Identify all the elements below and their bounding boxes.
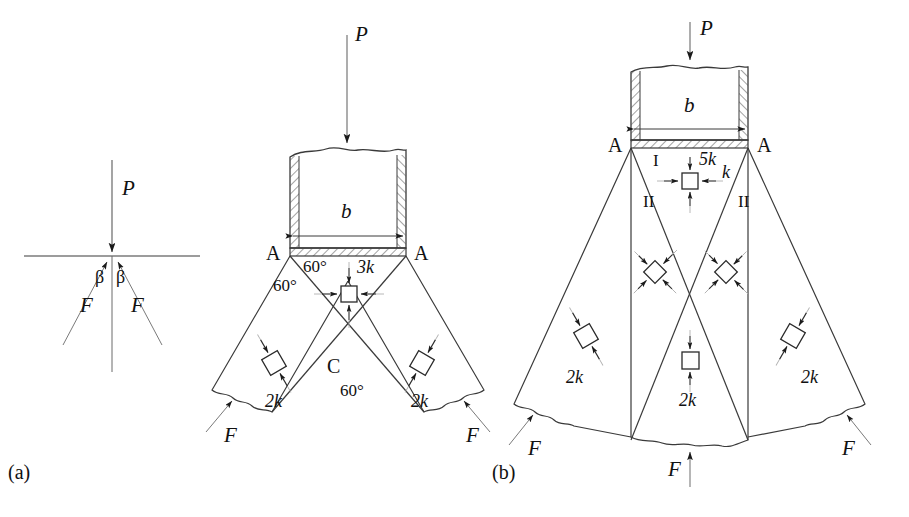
stress-element-center-b xyxy=(682,330,699,392)
label-force-f-right-a-left: F xyxy=(131,295,144,316)
stress-square-right-a xyxy=(410,351,435,376)
label-point-c-a: C xyxy=(327,356,340,376)
label-stress-center-a: 3k xyxy=(357,258,374,276)
label-corner-b-left: A xyxy=(608,135,622,155)
punch-hatch-left-a xyxy=(290,156,299,248)
figure-drawing-canvas xyxy=(0,0,909,517)
punch-hatch-right-a xyxy=(397,155,406,248)
label-force-f-left-b: F xyxy=(528,438,541,459)
stress-element-left-a xyxy=(250,330,299,397)
punch-hatch-left-b xyxy=(631,71,640,140)
label-zone-ii-left-b: II xyxy=(643,193,654,210)
stress-square-left-a xyxy=(262,351,287,376)
stress-element-right-a xyxy=(397,330,446,397)
label-stress-left-a: 2k xyxy=(265,392,282,410)
wedge-right-outline-a xyxy=(348,256,484,412)
stress-element-outer-right-b xyxy=(768,303,817,370)
label-force-f-right-a: F xyxy=(466,425,479,446)
label-force-f-bottom-b: F xyxy=(668,459,681,480)
label-force-f-right-b: F xyxy=(842,438,855,459)
label-stress-center-b: 2k xyxy=(679,391,696,409)
stress-square-outer-right-b xyxy=(781,324,806,349)
stress-element-mid-right-b xyxy=(684,230,769,315)
label-force-f-left-a-left: F xyxy=(80,295,93,316)
stress-square-center-b xyxy=(682,352,699,369)
label-stress-outer-right-b: 2k xyxy=(801,368,818,386)
wedge-right-outline-b xyxy=(748,148,865,437)
label-width-b-a: b xyxy=(341,201,352,222)
label-stress-right-a: 2k xyxy=(411,392,428,410)
label-load-p-a: P xyxy=(355,24,368,45)
label-beta-left-a: β xyxy=(95,268,104,286)
label-zone-ii-right-b: II xyxy=(738,193,749,210)
stress-square-top-b xyxy=(682,173,698,189)
stress-element-outer-left-b xyxy=(562,303,611,370)
panel-a-left-sketch xyxy=(24,160,200,372)
label-corner-a-left: A xyxy=(266,243,280,263)
stress-element-mid-left-b xyxy=(613,230,698,315)
label-zone-i-b: I xyxy=(653,152,659,169)
label-corner-b-right: A xyxy=(757,135,771,155)
punch-base-band-a xyxy=(290,248,406,256)
label-load-p-a-left: P xyxy=(122,178,135,199)
panel-b-punch-assembly xyxy=(509,22,871,487)
stress-square-outer-left-b xyxy=(574,324,599,349)
panel-a-punch-assembly xyxy=(206,35,490,432)
label-angle-wedge-left-a: 60° xyxy=(273,277,297,294)
caption-panel-b: (b) xyxy=(492,462,515,482)
stress-square-center-a xyxy=(341,286,357,302)
label-beta-right-a: β xyxy=(116,268,125,286)
punch-base-band-b xyxy=(631,140,748,148)
label-stress-outer-left-b: 2k xyxy=(566,368,583,386)
caption-panel-a: (a) xyxy=(8,462,30,482)
label-load-p-b: P xyxy=(700,18,713,39)
label-angle-bottom-a: 60° xyxy=(340,382,364,399)
label-angle-top-left-a: 60° xyxy=(303,258,327,275)
label-corner-a-right: A xyxy=(414,243,428,263)
label-width-b-b: b xyxy=(684,95,695,116)
label-force-f-left-a: F xyxy=(224,425,237,446)
label-stress-top-b: 5k xyxy=(699,150,716,168)
punch-body-a xyxy=(290,148,406,248)
figure-root: P β β F F P b A A 60° 60° 60° C 3k 2k 2k… xyxy=(0,0,909,517)
wedge-left-outline-b xyxy=(514,148,631,437)
label-stress-top-side-b: k xyxy=(722,163,730,181)
